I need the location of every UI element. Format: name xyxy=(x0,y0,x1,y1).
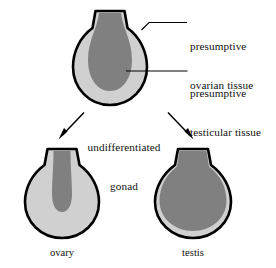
ovary-shape xyxy=(22,146,102,242)
caption-testis: testis xyxy=(152,247,234,259)
label-testicular-line2: testicular tissue xyxy=(190,126,261,139)
caption-ovary: ovary xyxy=(22,247,102,259)
undifferentiated-gonad-shape xyxy=(70,8,150,112)
label-ovarian-line1: presumptive xyxy=(190,40,253,53)
testis-shape xyxy=(152,146,234,242)
leader-testicular-tissue xyxy=(126,68,188,74)
leader-ovarian-tissue xyxy=(141,21,188,31)
ovary-inner-tissue xyxy=(52,151,72,212)
label-testicular-line1: presumptive xyxy=(190,87,261,100)
testis-inner-tissue xyxy=(160,151,227,231)
figure-canvas: presumptive ovarian tissue presumptive t… xyxy=(0,0,276,268)
